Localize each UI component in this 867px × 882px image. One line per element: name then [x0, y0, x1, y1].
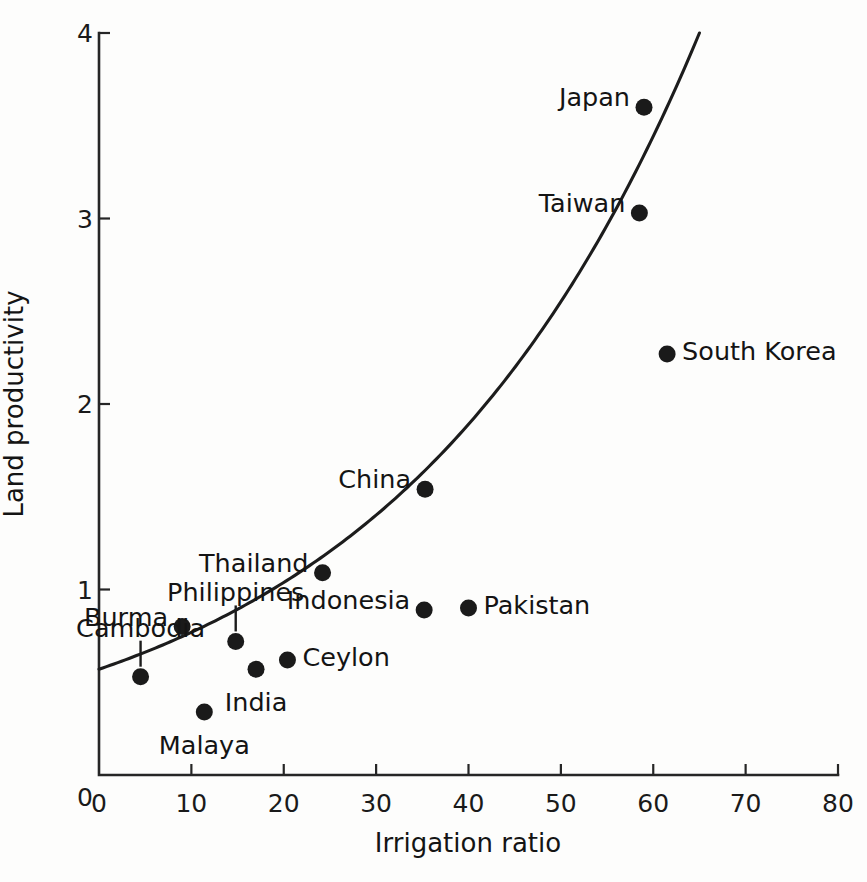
- y-tick-label: 2: [65, 390, 93, 419]
- data-point-marker: [132, 668, 149, 685]
- exponential-fit-line: [99, 33, 699, 669]
- data-point-marker: [314, 564, 331, 581]
- axes: [99, 33, 838, 775]
- data-point-label: Philippines: [167, 581, 304, 607]
- x-tick-label: 30: [360, 789, 392, 818]
- x-tick-label: 0: [91, 789, 107, 818]
- y-tick-label: 1: [65, 575, 93, 604]
- x-axis-title: Irrigation ratio: [375, 828, 561, 858]
- x-tick-label: 10: [175, 789, 207, 818]
- data-point-label: India: [225, 691, 288, 717]
- data-point-label: Ceylon: [302, 645, 389, 671]
- plot-area: [0, 0, 867, 882]
- data-point-marker: [196, 703, 213, 720]
- x-axis-ticks: [191, 764, 838, 775]
- data-point-marker: [636, 99, 653, 116]
- y-tick-label: 0: [65, 783, 93, 812]
- x-tick-label: 80: [822, 789, 854, 818]
- data-point-label: Indonesia: [287, 588, 410, 614]
- data-point-label: Malaya: [159, 733, 250, 759]
- data-point-label: South Korea: [682, 339, 837, 365]
- y-axis-ticks: [99, 33, 110, 590]
- data-point-label: Taiwan: [539, 191, 626, 217]
- x-tick-label: 50: [545, 789, 577, 818]
- data-point-label: Cambodia: [76, 616, 205, 642]
- data-point-label: Thailand: [199, 551, 309, 577]
- data-point-marker: [227, 633, 244, 650]
- data-point-marker: [417, 481, 434, 498]
- y-tick-label: 3: [65, 204, 93, 233]
- data-point-marker: [659, 345, 676, 362]
- data-point-marker: [279, 651, 296, 668]
- data-point-marker: [248, 661, 265, 678]
- x-tick-label: 20: [268, 789, 300, 818]
- x-tick-label: 60: [637, 789, 669, 818]
- data-point-label: Pakistan: [484, 593, 591, 619]
- data-point-label: Japan: [559, 85, 630, 111]
- axis-lines: [99, 33, 838, 775]
- y-axis-title: Land productivity: [0, 290, 29, 517]
- y-tick-label: 4: [65, 19, 93, 48]
- data-point-label: China: [338, 468, 411, 494]
- x-tick-label: 70: [730, 789, 762, 818]
- chart-figure: 0102030405060708001234 JapanTaiwanSouth …: [0, 0, 867, 882]
- x-tick-label: 40: [453, 789, 485, 818]
- data-point-marker: [460, 600, 477, 617]
- data-point-marker: [416, 601, 433, 618]
- data-point-marker: [631, 204, 648, 221]
- trend-curve: [99, 33, 699, 669]
